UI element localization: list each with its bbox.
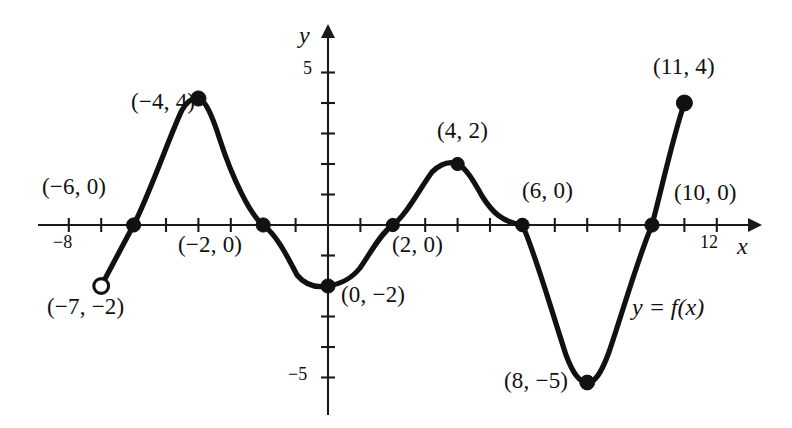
- function-label: y = f(x): [632, 294, 704, 321]
- point-marker: [451, 157, 464, 170]
- x-axis-label: x: [737, 233, 748, 260]
- x-axis-arrow-icon: [748, 218, 762, 232]
- y-axis-arrow-icon: [321, 24, 335, 38]
- point-label-neg6-0: (−6, 0): [42, 174, 106, 200]
- open-endpoint-marker: [94, 279, 109, 294]
- y-tick-label-neg5: −5: [288, 364, 307, 385]
- x-tick-label-neg8: −8: [53, 232, 72, 253]
- point-label-0-neg2: (0, −2): [341, 282, 405, 308]
- y-axis: [321, 24, 335, 415]
- point-label-4-2: (4, 2): [437, 118, 488, 144]
- closed-endpoint-marker: [676, 95, 692, 111]
- point-label-8-neg5: (8, −5): [504, 368, 568, 394]
- point-marker: [386, 218, 399, 231]
- point-marker: [127, 218, 141, 232]
- x-tick-label-12: 12: [700, 232, 718, 253]
- point-label-10-0: (10, 0): [674, 180, 737, 206]
- point-marker: [256, 218, 270, 232]
- point-marker: [516, 218, 530, 232]
- point-marker: [321, 279, 335, 293]
- point-label-2-0: (2, 0): [392, 232, 443, 258]
- graph-figure: y x −8 12 5 −5 (−6, 0) (−4, 4) (−7, −2) …: [0, 0, 792, 428]
- point-label-11-4: (11, 4): [653, 54, 715, 80]
- point-label-neg7-neg2: (−7, −2): [47, 294, 124, 320]
- point-label-neg2-0: (−2, 0): [178, 232, 242, 258]
- point-marker: [580, 375, 595, 390]
- y-tick-label-5: 5: [303, 58, 312, 79]
- point-label-neg4-4: (−4, 4): [131, 89, 195, 115]
- point-label-6-0: (6, 0): [522, 178, 573, 204]
- point-marker: [645, 218, 659, 232]
- y-axis-label: y: [299, 22, 310, 49]
